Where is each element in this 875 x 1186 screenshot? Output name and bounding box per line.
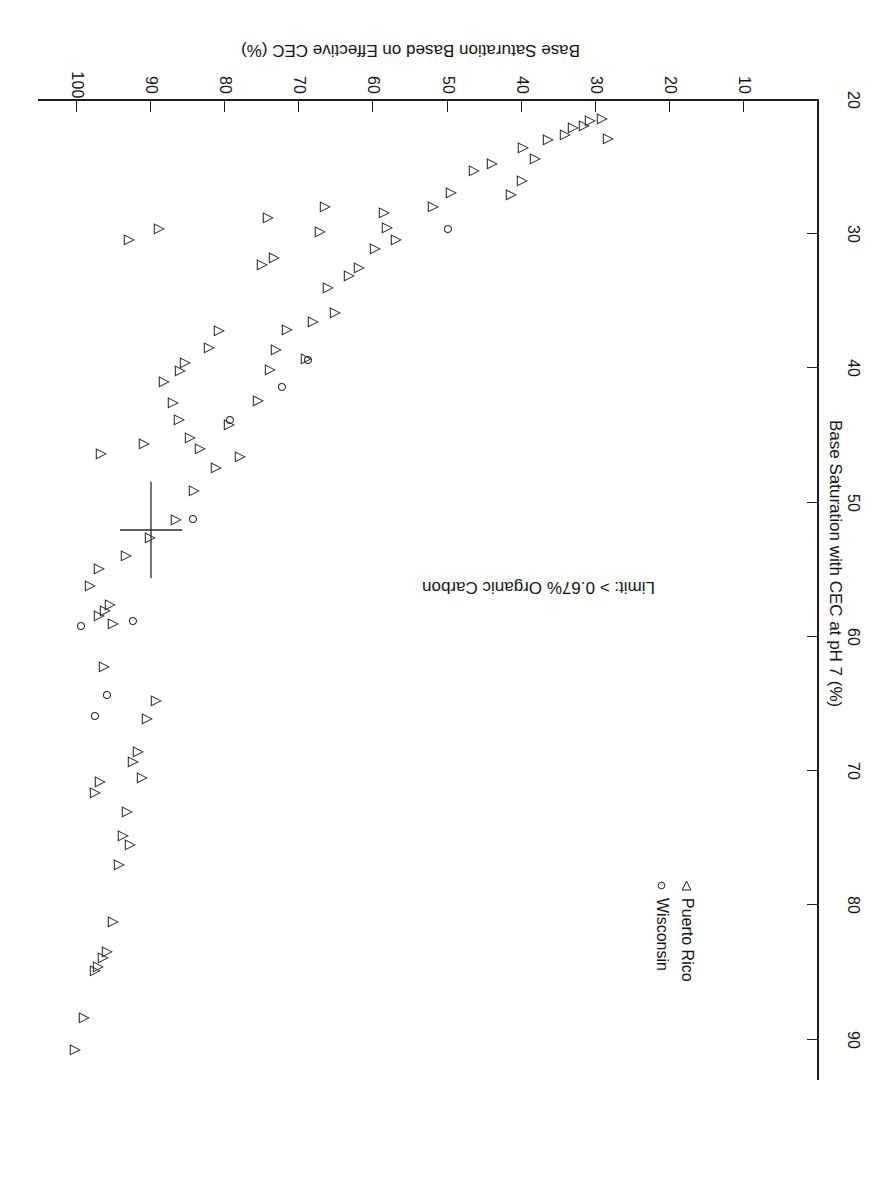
- data-point-puerto-rico: [426, 201, 439, 214]
- data-point-puerto-rico: [94, 448, 107, 461]
- data-point-puerto-rico: [99, 605, 112, 618]
- data-point-puerto-rico: [170, 514, 183, 527]
- scatter-plot-figure: 1020304050607080901002030405060708090 Ba…: [0, 0, 875, 1186]
- data-point-puerto-rico: [93, 609, 106, 622]
- data-point-puerto-rico: [268, 252, 281, 265]
- data-point-puerto-rico: [103, 598, 116, 611]
- data-point-puerto-rico: [140, 712, 153, 725]
- data-point-puerto-rico: [213, 324, 226, 337]
- data-point-puerto-rico: [150, 695, 163, 708]
- data-point-puerto-rico: [96, 951, 109, 964]
- data-point-puerto-rico: [256, 259, 269, 272]
- organic-carbon-limit-annotation: Limit: > 0.67% Organic Carbon: [422, 577, 655, 597]
- triangle-left-open-icon: [681, 879, 694, 892]
- data-point-wisconsin: [101, 689, 112, 700]
- data-point-puerto-rico: [541, 134, 554, 147]
- data-point-puerto-rico: [91, 961, 104, 974]
- data-point-puerto-rico: [322, 281, 335, 294]
- data-point-puerto-rico: [251, 394, 264, 407]
- data-point-puerto-rico: [445, 186, 458, 199]
- data-point-puerto-rico: [595, 112, 608, 125]
- data-point-puerto-rico: [136, 771, 149, 784]
- data-point-wisconsin: [224, 414, 235, 425]
- data-point-puerto-rico: [152, 222, 165, 235]
- data-point-puerto-rico: [97, 660, 110, 673]
- data-point-puerto-rico: [328, 307, 341, 320]
- data-point-puerto-rico: [173, 413, 186, 426]
- data-point-puerto-rico: [93, 562, 106, 575]
- data-point-puerto-rico: [222, 418, 235, 431]
- data-point-puerto-rico: [234, 451, 247, 464]
- data-point-puerto-rico: [174, 365, 187, 378]
- data-point-puerto-rico: [515, 174, 528, 187]
- data-point-puerto-rico: [269, 343, 282, 356]
- data-point-puerto-rico: [88, 786, 101, 799]
- data-point-puerto-rico: [210, 461, 223, 474]
- data-point-puerto-rico: [202, 342, 215, 355]
- data-point-wisconsin: [276, 382, 287, 393]
- data-point-puerto-rico: [306, 315, 319, 328]
- data-point-wisconsin: [303, 355, 314, 366]
- data-point-puerto-rico: [68, 1044, 81, 1057]
- data-point-puerto-rico: [505, 189, 518, 202]
- legend: Puerto Rico Wisconsin: [650, 879, 700, 982]
- data-point-puerto-rico: [121, 805, 134, 818]
- data-point-puerto-rico: [601, 132, 614, 145]
- legend-label-wisconsin: Wisconsin: [650, 898, 675, 971]
- legend-item-puerto-rico: Puerto Rico: [675, 879, 700, 982]
- data-point-puerto-rico: [368, 243, 381, 256]
- legend-label-puerto-rico: Puerto Rico: [675, 898, 700, 982]
- data-point-puerto-rico: [113, 859, 126, 872]
- data-point-puerto-rico: [380, 221, 393, 234]
- data-point-puerto-rico: [94, 775, 107, 788]
- data-point-puerto-rico: [117, 829, 130, 842]
- data-point-puerto-rico: [119, 550, 132, 563]
- circle-open-icon: [656, 879, 669, 892]
- data-point-wisconsin: [89, 711, 100, 722]
- data-point-puerto-rico: [300, 353, 313, 366]
- data-point-puerto-rico: [567, 122, 580, 135]
- data-point-puerto-rico: [352, 261, 365, 274]
- data-point-puerto-rico: [144, 531, 157, 544]
- data-point-puerto-rico: [127, 755, 140, 768]
- data-point-puerto-rico: [194, 443, 207, 456]
- x-axis-title: Base Saturation Based on Effective CEC (…: [241, 40, 580, 60]
- data-point-puerto-rico: [485, 158, 498, 171]
- data-point-wisconsin: [187, 513, 198, 524]
- data-point-puerto-rico: [319, 201, 332, 214]
- data-point-puerto-rico: [377, 206, 390, 219]
- data-point-puerto-rico: [106, 617, 119, 630]
- data-point-puerto-rico: [314, 225, 327, 238]
- figure-rotation-wrapper: 1020304050607080901002030405060708090 Ba…: [0, 0, 875, 1186]
- data-point-wisconsin: [127, 615, 138, 626]
- data-point-puerto-rico: [577, 119, 590, 132]
- data-point-puerto-rico: [179, 357, 192, 370]
- data-point-puerto-rico: [262, 212, 275, 225]
- data-point-puerto-rico: [558, 128, 571, 141]
- data-point-puerto-rico: [84, 579, 97, 592]
- data-point-puerto-rico: [137, 437, 150, 450]
- data-point-puerto-rico: [389, 233, 402, 246]
- data-point-puerto-rico: [342, 269, 355, 282]
- data-point-puerto-rico: [88, 965, 101, 978]
- data-point-puerto-rico: [183, 432, 196, 445]
- data-point-puerto-rico: [124, 839, 137, 852]
- data-point-puerto-rico: [281, 323, 294, 336]
- data-point-puerto-rico: [188, 484, 201, 497]
- data-point-puerto-rico: [468, 165, 481, 178]
- data-point-puerto-rico: [528, 153, 541, 166]
- data-point-puerto-rico: [77, 1012, 90, 1025]
- data-point-puerto-rico: [263, 363, 276, 376]
- data-point-puerto-rico: [106, 915, 119, 928]
- data-point-wisconsin: [76, 621, 87, 632]
- data-point-puerto-rico: [167, 397, 180, 410]
- y-axis-title: Base Saturation with CEC at pH 7 (%): [825, 420, 845, 707]
- data-point-puerto-rico: [122, 233, 135, 246]
- data-point-puerto-rico: [131, 746, 144, 759]
- data-point-puerto-rico: [583, 115, 596, 128]
- data-point-puerto-rico: [158, 375, 171, 388]
- data-point-puerto-rico: [100, 946, 113, 959]
- reference-cross-marker: [120, 481, 182, 578]
- data-point-wisconsin: [442, 223, 453, 234]
- data-point-puerto-rico: [517, 142, 530, 155]
